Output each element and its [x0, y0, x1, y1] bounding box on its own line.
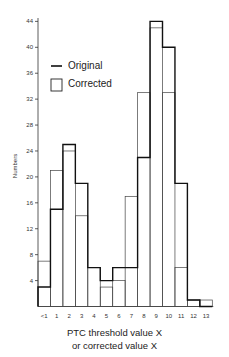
x-tick-label: 11	[178, 313, 185, 319]
y-tick-label: 28	[26, 122, 33, 128]
corrected-bar	[138, 93, 150, 307]
y-axis: 48121620242832364044	[26, 18, 38, 307]
corrected-bar	[38, 261, 50, 306]
corrected-bar	[88, 268, 100, 307]
y-tick-label: 24	[26, 148, 33, 154]
corrected-bar	[50, 170, 62, 306]
x-tick-label: <1	[41, 313, 49, 319]
corrected-bar	[100, 287, 112, 306]
y-tick-label: 36	[26, 70, 33, 76]
legend-corrected-swatch	[51, 79, 62, 91]
x-tick-label: 2	[67, 313, 71, 319]
y-tick-label: 4	[30, 278, 34, 284]
corrected-bar	[187, 300, 199, 306]
corrected-bar	[125, 196, 137, 306]
x-tick-label: 1	[55, 313, 59, 319]
x-tick-label: 8	[142, 313, 146, 319]
corrected-bar	[113, 281, 125, 307]
y-tick-label: 44	[26, 18, 33, 24]
x-tick-label: 7	[130, 313, 134, 319]
legend-corrected-label: Corrected	[68, 78, 112, 89]
legend-original-label: Original	[68, 60, 102, 71]
x-axis: <112345678910111213	[38, 307, 213, 319]
x-axis-title: PTC threshold value X or corrected value…	[0, 326, 229, 352]
corrected-bar	[63, 151, 75, 307]
legend: Original Corrected	[51, 60, 112, 91]
x-tick-label: 10	[165, 313, 172, 319]
x-tick-label: 5	[105, 313, 109, 319]
corrected-bar	[163, 93, 175, 307]
corrected-bar	[75, 216, 87, 307]
x-tick-label: 6	[117, 313, 121, 319]
corrected-series	[38, 28, 212, 307]
y-tick-label: 16	[26, 200, 33, 206]
y-tick-label: 32	[26, 96, 33, 102]
x-tick-label: 4	[92, 313, 96, 319]
x-axis-title-line1: PTC threshold value X	[0, 326, 229, 339]
x-tick-label: 3	[80, 313, 84, 319]
corrected-bar	[175, 268, 187, 307]
x-tick-label: 12	[190, 313, 197, 319]
y-tick-label: 40	[26, 44, 33, 50]
x-tick-label: 9	[155, 313, 159, 319]
histogram-chart: 48121620242832364044 <112345678910111213…	[0, 0, 229, 357]
x-tick-label: 13	[203, 313, 210, 319]
y-tick-label: 20	[26, 174, 33, 180]
y-tick-label: 12	[26, 226, 33, 232]
x-axis-title-line2: or corrected value X	[0, 339, 229, 352]
y-axis-label: Numbers	[12, 154, 18, 178]
corrected-bar	[150, 28, 162, 307]
corrected-bar	[200, 300, 212, 306]
y-tick-label: 8	[30, 252, 34, 258]
